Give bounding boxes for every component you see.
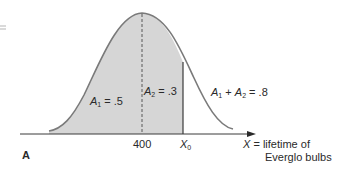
area-a1-label: A1 = .5	[89, 95, 123, 108]
shaded-area	[49, 13, 183, 134]
tick-label-x0: X0	[179, 138, 191, 151]
axis-arrow-icon	[247, 131, 256, 137]
panel-label: A	[22, 149, 30, 161]
x-axis-label: X = lifetime of	[242, 138, 311, 150]
area-sum-label: A1 + A2 = .8	[210, 86, 268, 99]
tick-label-400: 400	[133, 138, 151, 150]
normal-curve-diagram: A1 = .5 A2 = .3 A1 + A2 = .8 400 X0 X = …	[0, 0, 342, 172]
equals-mark	[0, 26, 6, 29]
x-axis-label-line2: Everglo bulbs	[265, 151, 332, 163]
area-a2-label: A2 = .3	[143, 85, 177, 98]
